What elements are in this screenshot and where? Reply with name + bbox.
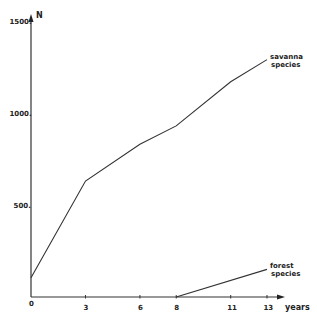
x-tick-label: 0 (29, 300, 34, 308)
series-line-savanna-species (31, 60, 267, 278)
svg-text:species: species (271, 61, 300, 69)
svg-text:forest: forest (270, 262, 294, 270)
y-tick-label: 500. (14, 202, 31, 210)
series-label-savanna-species: savannaspecies (270, 53, 303, 69)
tick-labels: 03681113500.1000.1500. (10, 18, 274, 313)
x-axis-label: years (285, 303, 310, 312)
x-tick-label: 8 (174, 304, 179, 312)
y-axis-label: N (36, 11, 43, 20)
chart-canvas: 03681113500.1000.1500. N years savannasp… (0, 0, 317, 324)
x-tick-label: 11 (227, 304, 237, 312)
series-line-forest-species (176, 269, 267, 297)
x-tick-label: 6 (138, 304, 143, 312)
svg-text:savanna: savanna (270, 53, 303, 61)
series-labels: savannaspeciesforestspecies (270, 53, 303, 279)
axes (29, 14, 286, 300)
x-tick-label: 13 (264, 304, 274, 312)
y-tick-label: 1000. (10, 110, 32, 118)
series-lines (31, 60, 267, 297)
x-tick-label: 3 (83, 304, 88, 312)
y-tick-label: 1500. (10, 18, 32, 26)
series-label-forest-species: forestspecies (270, 262, 300, 278)
x-axis-arrow-icon (277, 295, 285, 300)
svg-text:species: species (271, 270, 300, 278)
